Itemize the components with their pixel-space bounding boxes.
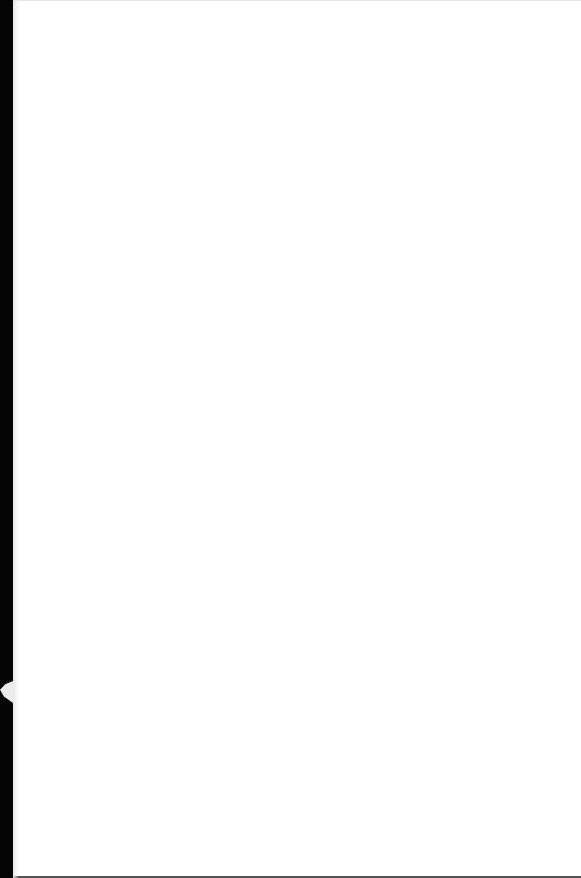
- page-edge-shadow: [13, 0, 19, 878]
- scan-left-border: [0, 0, 13, 878]
- blank-page: [13, 0, 581, 878]
